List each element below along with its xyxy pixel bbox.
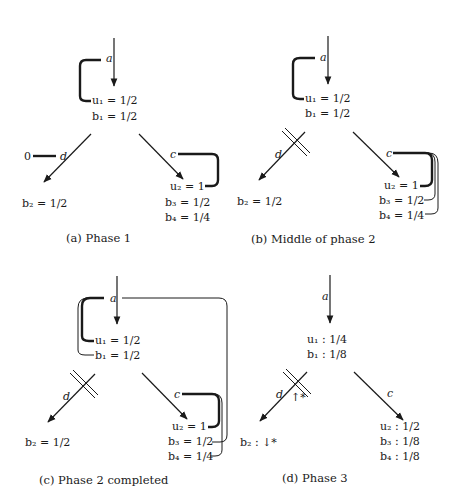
- node-right-b3: b₃ = 1/2: [165, 196, 210, 209]
- node-right-b3: b₃ = 1/2: [168, 435, 213, 448]
- node1-b1: b₁ = 1/2: [95, 349, 140, 362]
- node1-u1: u₁ : 1/4: [307, 333, 347, 346]
- edge-label-c: c: [170, 148, 176, 161]
- panel-d: a u₁ : 1/4 b₁ : 1/8 d ↑* b₂ : ↓* c u₂ : …: [240, 275, 420, 485]
- node-right-b4: b₄ : 1/8: [380, 450, 420, 463]
- node1-b1: b₁ : 1/8: [307, 348, 347, 361]
- edge-c: [142, 373, 187, 419]
- edge-label-a: a: [106, 52, 113, 65]
- node1-u1: u₁ = 1/2: [305, 92, 350, 105]
- node-right-u2: u₂ = 1: [384, 179, 419, 192]
- edge-label-c: c: [174, 388, 180, 401]
- cut-mark: [70, 370, 98, 398]
- edge-label-a: a: [320, 51, 327, 64]
- caption-a: (a) Phase 1: [66, 231, 131, 245]
- edge-label-d: d: [276, 388, 283, 401]
- edge-label-c: c: [386, 147, 392, 160]
- node1-b1: b₁ = 1/2: [305, 107, 350, 120]
- edge-d: [48, 374, 95, 422]
- edge-c: [139, 134, 183, 179]
- node-right-b4: b₄ = 1/4: [379, 209, 424, 222]
- edge-label-a: a: [110, 292, 117, 305]
- node-left-b2: b₂ : ↓*: [240, 436, 277, 449]
- node-right-b4: b₄ = 1/4: [168, 450, 213, 463]
- panel-c: a u₁ = 1/2 b₁ = 1/2 d b₂ = 1/2 c u₂ = 1 …: [25, 276, 227, 487]
- node-left-b2: b₂ = 1/2: [25, 436, 70, 449]
- caption-b: (b) Middle of phase 2: [251, 232, 375, 246]
- node-right-u2: u₂ = 1: [170, 180, 205, 193]
- edge-c: [354, 372, 403, 420]
- panel-b: a u₁ = 1/2 b₁ = 1/2 d b₂ = 1/2 c u₂ = 1 …: [237, 36, 438, 246]
- node-right-u2: u₂ = 1: [172, 420, 207, 433]
- node-right-b3: b₃ : 1/8: [380, 435, 420, 448]
- caption-c: (c) Phase 2 completed: [39, 473, 169, 487]
- node-right-b3: b₃ = 1/2: [379, 194, 424, 207]
- edge-label-c: c: [387, 387, 393, 400]
- caption-d: (d) Phase 3: [282, 471, 348, 485]
- node-left-b2: b₂ = 1/2: [237, 195, 282, 208]
- zero-marker: 0: [24, 150, 31, 163]
- node-right-b4: b₄ = 1/4: [165, 211, 210, 224]
- node-left-b2: b₂ = 1/2: [22, 197, 67, 210]
- node1-b1: b₁ = 1/2: [92, 110, 137, 123]
- edge-label-d: d: [63, 390, 70, 403]
- edge-label-d: d: [60, 150, 67, 163]
- edge-label-a: a: [322, 290, 329, 303]
- edge-d: [44, 134, 91, 182]
- edge-label-d: d: [275, 148, 282, 161]
- node1-u1: u₁ = 1/2: [92, 94, 137, 107]
- node-right-u2: u₂ : 1/2: [380, 420, 420, 433]
- panel-a: a u₁ = 1/2 b₁ = 1/2 d 0 b₂ = 1/2 c u₂ = …: [22, 38, 218, 245]
- node1-u1: u₁ = 1/2: [95, 334, 140, 347]
- cut-annotation: ↑*: [291, 391, 306, 404]
